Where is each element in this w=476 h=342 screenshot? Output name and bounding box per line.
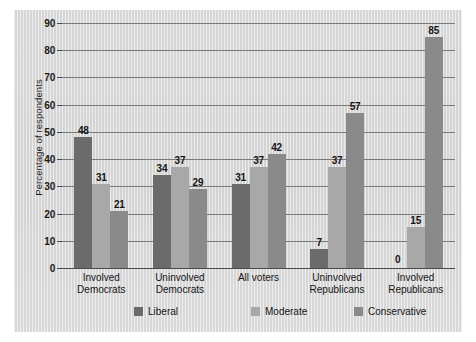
legend-swatch-icon [354,307,363,316]
bar-group: 343729 [153,23,207,268]
bar-value-label: 37 [332,155,343,166]
bar-value-label: 0 [395,254,400,265]
y-tick-label: 10 [44,235,55,246]
legend-item-moderate[interactable]: Moderate [251,306,307,317]
x-axis-label-line: Republicans [371,284,461,296]
bar-value-label: 34 [157,163,168,174]
y-tick-label: 30 [44,181,55,192]
bar-group: 313742 [232,23,286,268]
y-tick-label: 90 [44,18,55,29]
y-tick-label: 0 [50,263,55,274]
bar[interactable]: 42 [268,154,286,268]
y-tick-label: 40 [44,154,55,165]
bar-group: 483121 [74,23,128,268]
x-axis-label: UninvolvedRepublicans [292,272,382,295]
x-axis-label-line: Republicans [292,284,382,296]
bar-chart-figure: Percentage of respondents 01020304050607… [14,10,462,332]
bar-value-label: 21 [114,199,125,210]
bar-value-label: 85 [428,25,439,36]
legend-swatch-icon [134,307,143,316]
bar-value-label: 31 [96,172,107,183]
legend-item-liberal[interactable]: Liberal [134,306,178,317]
legend-label: Liberal [148,306,178,317]
bar-value-label: 57 [350,101,361,112]
bar-group: 01585 [389,23,443,268]
bar[interactable]: 85 [425,37,443,268]
y-tick-mark [57,268,62,269]
bar[interactable]: 29 [189,189,207,268]
x-axis-label: InvolvedDemocrats [56,272,146,295]
bar-value-label: 15 [410,215,421,226]
bar[interactable]: 7 [310,249,328,268]
x-axis-label-line: Uninvolved [292,272,382,284]
y-tick-label: 70 [44,72,55,83]
legend-label: Moderate [265,306,307,317]
bar-value-label: 48 [78,125,89,136]
bar-value-label: 42 [271,142,282,153]
y-tick-label: 60 [44,99,55,110]
bar-value-label: 29 [193,177,204,188]
legend-label: Conservative [368,306,426,317]
bar-group: 73757 [310,23,364,268]
gridline [62,268,455,269]
y-axis-title: Percentage of respondents [33,48,44,228]
y-tick-label: 50 [44,126,55,137]
bar-value-label: 7 [316,237,321,248]
bar[interactable]: 37 [328,167,346,268]
bar[interactable]: 31 [232,184,250,268]
x-axis-label-line: Involved [56,272,146,284]
bar[interactable]: 37 [171,167,189,268]
x-axis-label-line: All voters [214,272,304,284]
legend-item-conservative[interactable]: Conservative [354,306,426,317]
bar[interactable]: 37 [250,167,268,268]
x-axis-label: All voters [214,272,304,284]
x-axis-label-line: Uninvolved [135,272,225,284]
x-axis-label-line: Democrats [135,284,225,296]
bar[interactable]: 34 [153,175,171,268]
bar[interactable]: 57 [346,113,364,268]
x-axis-label-line: Involved [371,272,461,284]
legend-swatch-icon [251,307,260,316]
bar[interactable]: 21 [110,211,128,268]
x-axis-label: UninvolvedDemocrats [135,272,225,295]
bar-value-label: 37 [175,155,186,166]
bar[interactable]: 31 [92,184,110,268]
x-axis-label-line: Democrats [56,284,146,296]
bars-layer: 4831213437293137427375701585 [62,23,455,268]
bar-value-label: 37 [253,155,264,166]
chart-legend: LiberalModerateConservative [14,306,462,324]
plot-area: 0102030405060708090 48312134372931374273… [62,23,455,268]
x-axis-label: InvolvedRepublicans [371,272,461,295]
y-tick-label: 80 [44,45,55,56]
bar-value-label: 31 [235,172,246,183]
y-tick-label: 20 [44,208,55,219]
bar[interactable]: 15 [407,227,425,268]
bar[interactable]: 48 [74,137,92,268]
